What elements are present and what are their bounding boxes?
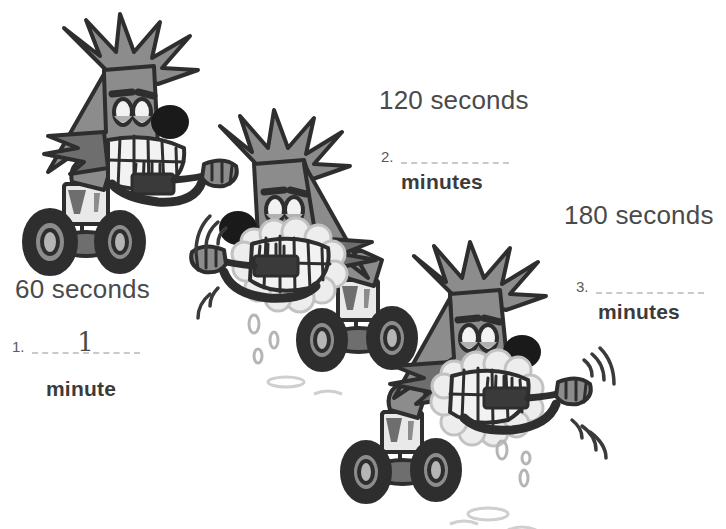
answer-row-2: 2. bbox=[381, 142, 509, 164]
item-number-2: 2. bbox=[381, 149, 394, 164]
ground-marks-2 bbox=[268, 377, 342, 394]
answer-blank-2[interactable] bbox=[401, 142, 509, 164]
item-number-1: 1. bbox=[12, 339, 25, 354]
ground-marks-3 bbox=[450, 508, 536, 529]
worksheet-canvas: 60 seconds 1. 1 minute 120 seconds 2. mi… bbox=[0, 0, 726, 529]
answer-blank-1[interactable]: 1 bbox=[32, 332, 140, 354]
unit-label-3: minutes bbox=[598, 300, 680, 324]
item-number-3: 3. bbox=[576, 279, 589, 294]
answer-blank-3[interactable] bbox=[596, 272, 704, 294]
unit-label-1: minute bbox=[46, 377, 116, 401]
unit-label-2: minutes bbox=[401, 170, 483, 194]
seconds-label-1: 60 seconds bbox=[15, 274, 150, 305]
seconds-label-2: 120 seconds bbox=[379, 85, 529, 116]
seconds-label-3: 180 seconds bbox=[564, 200, 714, 231]
water-drops-2 bbox=[249, 315, 278, 363]
answer-row-3: 3. bbox=[576, 272, 704, 294]
answer-value-1: 1 bbox=[77, 329, 94, 355]
answer-row-1: 1. 1 bbox=[12, 332, 140, 354]
water-drops-3 bbox=[497, 441, 530, 486]
